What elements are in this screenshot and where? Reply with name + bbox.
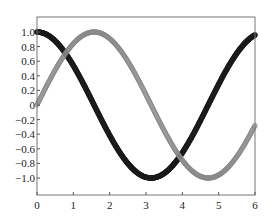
y-tick-label: 0.6: [21, 55, 35, 67]
y-tick-label: −1.0: [15, 172, 35, 184]
plot-frame: [37, 17, 255, 195]
y-tick-label: 0: [30, 99, 36, 111]
x-tick-label: 1: [71, 199, 77, 211]
x-tick-label: 0: [34, 199, 40, 211]
x-tick-label: 4: [180, 199, 186, 211]
y-tick-label: 1.0: [21, 26, 35, 38]
y-tick-label: 0.2: [21, 84, 35, 96]
plot-series: [35, 30, 257, 180]
y-tick-label: −0.2: [15, 114, 35, 126]
series-sin: [35, 30, 257, 180]
y-axis: 1.00.80.60.40.20−0.2−0.4−0.6−0.8−1.0: [15, 26, 40, 184]
y-tick-label: 0.8: [21, 41, 35, 53]
chart: 1.00.80.60.40.20−0.2−0.4−0.6−0.8−1.0 012…: [0, 0, 273, 219]
x-tick-label: 2: [107, 199, 113, 211]
x-tick-label: 3: [143, 199, 149, 211]
y-tick-label: −0.4: [15, 128, 35, 140]
x-tick-label: 5: [216, 199, 222, 211]
y-tick-label: −0.6: [15, 143, 35, 155]
x-tick-label: 6: [252, 199, 258, 211]
y-tick-label: −0.8: [15, 157, 35, 169]
y-tick-label: 0.4: [21, 70, 35, 82]
